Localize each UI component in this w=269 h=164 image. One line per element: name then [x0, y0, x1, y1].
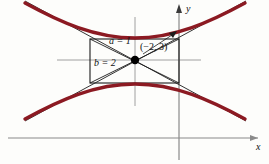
label-y-axis: y	[186, 4, 190, 14]
label-semi-axis-b: b = 2	[94, 58, 116, 68]
hyperbola-figure: a = 1 b = 2 (−2, 3) y x	[0, 0, 269, 164]
coordinate-axes	[8, 4, 258, 160]
label-x-axis: x	[256, 142, 260, 152]
y-axis-arrowhead	[176, 4, 182, 13]
hyperbola-svg	[0, 0, 269, 164]
center-point-dot	[131, 56, 139, 64]
label-semi-axis-a: a = 1	[109, 36, 131, 46]
label-center-coordinates: (−2, 3)	[140, 42, 167, 52]
